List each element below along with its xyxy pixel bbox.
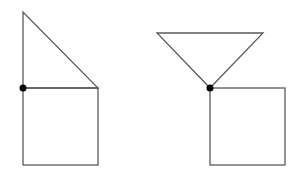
right-pivot-dot	[207, 85, 214, 92]
diagram-canvas	[0, 0, 304, 183]
right-triangle	[157, 33, 263, 88]
left-triangle	[23, 12, 98, 88]
right-figure	[157, 33, 285, 165]
right-square	[210, 88, 285, 165]
left-pivot-dot	[20, 85, 27, 92]
left-square	[23, 88, 98, 165]
left-figure	[20, 12, 99, 165]
